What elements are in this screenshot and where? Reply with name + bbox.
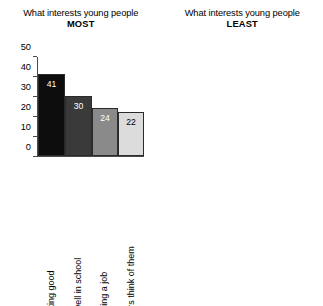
bars-most: 41 30 24 22 <box>38 57 144 156</box>
bar-most-finding-a-job[interactable]: 24 <box>92 108 118 156</box>
y-tick-most-40 <box>33 76 37 77</box>
y-tick-most-50 <box>33 56 37 57</box>
bar-value-most-1: 30 <box>66 102 91 111</box>
chart-panel-least: What interests young people LEAST 0 10 2… <box>162 0 323 306</box>
two-panel-bar-chart-figure: What interests young people MOST 0 10 20… <box>0 0 323 306</box>
chart-title-most: What interests young people MOST <box>0 8 162 30</box>
chart-title-most-line2: MOST <box>0 19 162 30</box>
y-tick-most-10 <box>33 136 37 137</box>
category-label-most-1: Doing well in school <box>65 164 92 302</box>
category-label-most-0: Looking good <box>38 164 65 302</box>
y-tick-label-most-40: 40 <box>21 63 31 72</box>
bar-value-most-0: 41 <box>39 80 64 89</box>
x-axis-most <box>37 156 144 157</box>
category-label-most-3: What others think of them <box>118 164 144 302</box>
chart-title-most-line1: What interests young people <box>0 8 162 19</box>
category-labels-most: Looking good Doing well in school Findin… <box>38 164 145 304</box>
bar-most-doing-well-in-school[interactable]: 30 <box>65 96 92 156</box>
y-tick-label-most-10: 10 <box>21 123 31 132</box>
y-tick-most-30 <box>33 96 37 97</box>
bar-most-what-others-think-of-them[interactable]: 22 <box>118 112 144 156</box>
y-tick-label-most-0: 0 <box>26 143 31 152</box>
y-tick-most-0 <box>33 156 37 157</box>
y-tick-most-20 <box>33 116 37 117</box>
chart-title-least-line2: LEAST <box>162 19 323 30</box>
chart-panel-most: What interests young people MOST 0 10 20… <box>0 0 162 306</box>
bar-value-most-2: 24 <box>93 114 117 123</box>
bar-value-most-3: 22 <box>119 118 143 127</box>
category-label-most-2: Finding a job <box>92 164 118 302</box>
y-tick-label-most-20: 20 <box>21 103 31 112</box>
y-tick-label-most-50: 50 <box>21 43 31 52</box>
plot-area-most: 0 10 20 30 40 50 41 30 24 22 <box>37 57 144 157</box>
y-tick-label-most-30: 30 <box>21 83 31 92</box>
chart-title-least-line1: What interests young people <box>162 8 323 19</box>
chart-title-least: What interests young people LEAST <box>162 8 323 30</box>
bar-most-looking-good[interactable]: 41 <box>38 74 65 156</box>
